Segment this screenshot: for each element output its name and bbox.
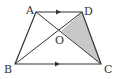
label-d: D	[84, 5, 93, 18]
parallel-arrow-bc-icon	[55, 62, 60, 67]
parallel-arrow-ad-icon	[56, 10, 61, 15]
label-c: C	[104, 63, 112, 76]
shaded-triangle-ocd	[61, 12, 101, 64]
label-b: B	[4, 63, 12, 76]
trapezoid-diagram: A D O B C	[0, 0, 121, 79]
label-o: O	[55, 34, 64, 47]
label-a: A	[25, 4, 35, 17]
